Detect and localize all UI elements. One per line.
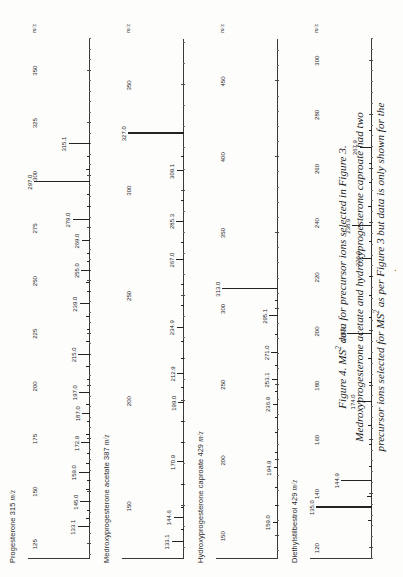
axis-minor-tick <box>89 522 91 523</box>
axis-minor-tick <box>277 50 279 51</box>
spectrum-peak <box>271 352 278 353</box>
axis-tick <box>87 543 91 544</box>
peak-label: 271.0 <box>264 345 270 360</box>
spectrum-peak <box>181 284 184 285</box>
axis-minor-tick <box>89 91 91 92</box>
axis-minor-tick <box>183 547 185 548</box>
axis-minor-tick <box>89 112 91 113</box>
axis-minor-tick <box>183 463 185 464</box>
spectrum-peak <box>81 442 90 443</box>
peak-label: 133.1 <box>70 520 76 535</box>
axis-tick <box>181 84 185 85</box>
spectrum-peak <box>275 391 278 392</box>
axis-minor-tick <box>89 196 91 197</box>
axis-minor-tick <box>89 375 91 376</box>
spectrum-peak <box>86 518 90 519</box>
axis-tick-label: 160 <box>313 435 320 445</box>
axis-tick-label: 200 <box>219 455 226 465</box>
spectrum-peak <box>176 259 184 260</box>
peak-label: 285.3 <box>169 214 175 229</box>
caption-line-2: precursor ions selected for MS2 as per F… <box>368 27 389 527</box>
spectrum-peak <box>275 505 278 506</box>
axis-minor-tick <box>89 427 91 428</box>
axis-tick-label: 280 <box>313 110 320 120</box>
spectrum-peak <box>181 442 184 443</box>
spectrum-peak <box>87 510 90 511</box>
axis-tick-label: 120 <box>313 543 320 553</box>
spectrum-peak <box>177 373 184 374</box>
spectrum-peak <box>177 327 184 328</box>
axis-tick <box>87 280 91 281</box>
spectrum-peak <box>81 270 90 271</box>
axis-tick <box>181 295 185 296</box>
axis-tick-label: 250 <box>125 291 132 301</box>
spectrum-peak <box>73 219 90 220</box>
spectrum-peak <box>177 170 184 171</box>
axis-tick-label: 180 <box>313 381 320 391</box>
axis-minor-tick <box>277 111 279 112</box>
axis-minor-tick <box>183 42 185 43</box>
axis-minor-tick <box>277 171 279 172</box>
axis-minor-tick <box>183 337 185 338</box>
axis-tick-label: 200 <box>125 396 132 406</box>
spectrum-peak <box>86 169 90 170</box>
axis-tick-label: 350 <box>219 228 226 238</box>
peak-label: 239.0 <box>72 297 78 312</box>
x-axis-title: m/z <box>124 24 131 33</box>
axis-tick-label: 300 <box>125 186 132 196</box>
spectrum-peak <box>79 472 90 473</box>
axis-tick <box>275 308 279 309</box>
spectrum-peak <box>78 354 90 355</box>
peak-label: 236.9 <box>265 397 271 412</box>
peak-label: 144.6 <box>166 510 172 525</box>
spectrum-peak <box>181 305 184 306</box>
axis-minor-tick <box>277 278 279 279</box>
axis-minor-tick <box>183 147 185 148</box>
axis-tick-label: 150 <box>125 501 132 511</box>
axis-minor-tick <box>277 323 279 324</box>
axis-minor-tick <box>277 262 279 263</box>
spectrum-progesterone: Progesterone 315 m/z 1251501752002252502… <box>6 0 98 577</box>
axis-minor-tick <box>89 249 91 250</box>
y-axis-0 <box>28 558 90 559</box>
spectrum-peak <box>181 388 184 389</box>
spectrum-peak <box>174 517 184 518</box>
spectrum-peak <box>87 156 90 157</box>
axis-tick-label: 200 <box>31 381 38 391</box>
spectrum-peak <box>181 242 184 243</box>
peak-label: 170.9 <box>170 455 176 470</box>
peak-label: 215.0 <box>71 347 77 362</box>
peak-label: 253.1 <box>264 372 270 387</box>
peak-label: 269.0 <box>74 234 80 249</box>
axis-minor-tick <box>89 80 91 81</box>
spectrum-peak <box>87 421 90 422</box>
spectrum-peak <box>178 402 184 403</box>
axis-tick <box>87 385 91 386</box>
plot-area-2: 150200250300350400450m/z159.0194.9236.92… <box>216 39 278 559</box>
spectrum-peak <box>87 194 90 195</box>
rotated-page-canvas: Progesterone 315 m/z 1251501752002252502… <box>0 0 403 577</box>
axis-minor-tick <box>89 185 91 186</box>
axis-tick-label: 300 <box>219 304 226 314</box>
axis-tick <box>87 227 91 228</box>
axis-minor-tick <box>89 470 91 471</box>
spectrum-peak <box>181 508 184 509</box>
spectrum-peak <box>172 541 184 542</box>
axis-tick <box>87 122 91 123</box>
axis-tick <box>275 232 279 233</box>
spectrum-peak <box>181 156 184 157</box>
axis-tick-label: 220 <box>313 272 320 282</box>
axis-tick <box>87 175 91 176</box>
spectrum-peak <box>86 341 90 342</box>
spectrum-peak <box>86 489 90 490</box>
axis-tick-label: 240 <box>313 218 320 228</box>
peak-label: 295.1 <box>262 309 268 324</box>
spectrum-peak <box>86 282 90 283</box>
spectrum-title-2: Hydroxyprogesterone caproate 429 m/z <box>196 431 205 563</box>
axis-minor-tick <box>277 65 279 66</box>
axis-minor-tick <box>89 49 91 50</box>
axis-minor-tick <box>89 101 91 102</box>
x-axis-title: m/z <box>312 24 319 33</box>
axis-minor-tick <box>89 133 91 134</box>
spectrum-peak <box>269 315 278 316</box>
